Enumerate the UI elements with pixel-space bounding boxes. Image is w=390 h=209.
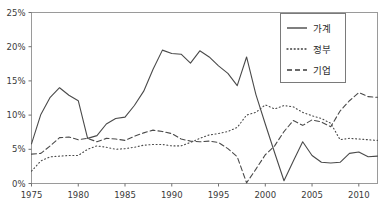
y-tick-label: 10%	[7, 110, 26, 120]
legend-label-가계: 가계	[313, 23, 331, 34]
y-axis-ticks: 0%5%10%15%20%25%	[7, 8, 32, 189]
x-axis-ticks: 19751980198519901995200020052010	[21, 184, 370, 200]
x-tick-label: 1975	[21, 190, 43, 200]
legend-label-정부: 정부	[313, 44, 331, 55]
y-tick-label: 15%	[7, 76, 26, 86]
chart-legend: 가계정부기업	[281, 14, 346, 83]
y-tick-label: 20%	[7, 42, 26, 52]
line-chart: 0%5%10%15%20%25% 19751980198519901995200…	[0, 0, 390, 209]
x-tick-label: 2010	[348, 190, 370, 200]
legend-label-기업: 기업	[313, 65, 331, 76]
y-tick-label: 25%	[7, 8, 26, 18]
x-tick-label: 1980	[67, 190, 89, 200]
x-tick-label: 2000	[254, 190, 276, 200]
y-tick-label: 5%	[12, 144, 26, 154]
chart-canvas: 0%5%10%15%20%25% 19751980198519901995200…	[0, 0, 390, 209]
series-line-정부	[32, 105, 378, 171]
y-tick-label: 0%	[12, 179, 26, 189]
x-tick-label: 1990	[161, 190, 183, 200]
x-tick-label: 1985	[114, 190, 136, 200]
series-line-기업	[32, 93, 378, 183]
x-tick-label: 2005	[301, 190, 323, 200]
x-tick-label: 1995	[208, 190, 230, 200]
